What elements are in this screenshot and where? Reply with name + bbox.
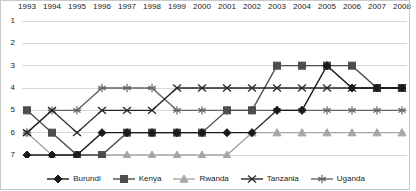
square-marker (120, 175, 127, 182)
square-marker (24, 107, 31, 114)
y-tick-label-2: 2 (0, 38, 15, 47)
data-point-marker (348, 106, 356, 114)
series-line-rwanda (27, 133, 402, 155)
cross-marker (240, 173, 264, 185)
square-marker (349, 62, 356, 69)
legend-item-kenya[interactable]: Kenya (112, 173, 162, 185)
legend-label-kenya: Kenya (139, 174, 162, 183)
diamond-marker (298, 106, 306, 114)
data-point-marker (24, 107, 31, 114)
legend-item-rwanda[interactable]: Rwanda (172, 173, 228, 185)
diamond-marker (46, 173, 70, 185)
data-point-marker (224, 107, 231, 114)
x-tick-label-2008: 2008 (387, 2, 416, 11)
plot-svg (22, 18, 407, 158)
legend-label-burundi: Burundi (73, 174, 101, 183)
y-tick-label-3: 3 (0, 61, 15, 70)
legend-item-tanzania[interactable]: Tanzania (240, 173, 299, 185)
plot-area (22, 18, 407, 158)
data-point-marker (223, 129, 231, 137)
data-point-marker (120, 175, 127, 182)
y-tick-label-6: 6 (0, 128, 15, 137)
legend-label-tanzania: Tanzania (267, 174, 299, 183)
square-marker (299, 62, 306, 69)
diamond-marker (23, 151, 31, 158)
data-point-marker (54, 175, 62, 183)
y-tick-label-1: 1 (0, 16, 15, 25)
data-point-marker (298, 106, 306, 114)
data-point-marker (318, 174, 326, 182)
data-point-marker (99, 152, 106, 159)
data-point-marker (23, 151, 31, 158)
data-point-marker (49, 129, 56, 136)
diamond-marker (54, 175, 62, 183)
data-point-marker (373, 106, 381, 114)
diamond-marker (223, 129, 231, 137)
chart-legend: BurundiKenyaRwandaTanzaniaUganda (0, 166, 411, 191)
triangle-marker (172, 173, 196, 185)
square-marker (274, 62, 281, 69)
asterisk-marker (310, 173, 334, 185)
data-point-marker (198, 106, 206, 114)
data-point-marker (249, 107, 256, 114)
data-point-marker (349, 62, 356, 69)
data-point-marker (123, 84, 131, 92)
square-marker (49, 129, 56, 136)
square-marker (224, 107, 231, 114)
data-point-marker (299, 62, 306, 69)
square-marker (112, 173, 136, 185)
x-axis: 1993199419951996199719981999200020012002… (0, 0, 411, 16)
legend-item-uganda[interactable]: Uganda (310, 173, 365, 185)
data-point-marker (398, 106, 406, 114)
legend-item-burundi[interactable]: Burundi (46, 173, 101, 185)
data-point-marker (274, 62, 281, 69)
y-tick-label-4: 4 (0, 83, 15, 92)
square-marker (99, 152, 106, 159)
y-axis: 1234567 (0, 0, 20, 191)
data-point-marker (323, 106, 331, 114)
y-tick-label-7: 7 (0, 150, 15, 159)
legend-label-uganda: Uganda (337, 174, 365, 183)
legend-label-rwanda: Rwanda (199, 174, 228, 183)
y-tick-label-5: 5 (0, 105, 15, 114)
square-marker (249, 107, 256, 114)
